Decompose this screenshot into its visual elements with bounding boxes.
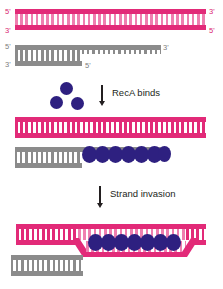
dloop-gray-base-pairs — [11, 260, 83, 271]
dloop-pink-right-base-pairs — [186, 229, 206, 240]
reca-protein-blob — [166, 234, 181, 251]
dloop-pink-bottom-left — [16, 240, 78, 245]
dloop-pink-bubble-bottom — [86, 252, 186, 257]
dloop-pink-bottom-right — [194, 240, 206, 245]
d-loop-structure — [0, 0, 223, 289]
reca-strand-invasion-figure: 5' 3' 3' 5' 5' 3' 3' 5' RecA binds — [0, 0, 223, 289]
dloop-gray-backbone-bottom — [11, 271, 83, 276]
dloop-pink-left-base-pairs — [16, 229, 78, 240]
